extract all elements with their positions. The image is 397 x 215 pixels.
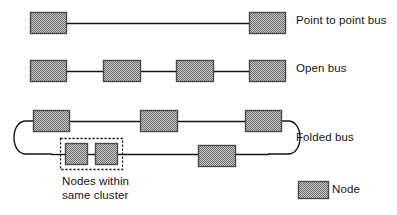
row-open-bus xyxy=(31,61,286,82)
node-open-4 xyxy=(250,61,286,82)
label-open-bus: Open bus xyxy=(296,62,347,75)
node-folded-top-3 xyxy=(246,111,282,132)
node-ptp-2 xyxy=(250,13,286,34)
node-open-3 xyxy=(177,61,214,82)
node-cluster-a xyxy=(66,144,88,165)
node-cluster-b xyxy=(96,144,118,165)
label-point-to-point-bus: Point to point bus xyxy=(296,14,387,27)
node-folded-bottom-1 xyxy=(199,146,236,167)
node-open-2 xyxy=(104,61,141,82)
label-folded-bus: Folded bus xyxy=(296,131,354,144)
node-legend-swatch xyxy=(299,182,329,199)
legend-group xyxy=(299,182,329,199)
row-folded-bus xyxy=(14,111,300,170)
node-folded-top-1 xyxy=(34,111,70,132)
node-ptp-1 xyxy=(31,13,67,34)
caption-nodes-within-same-cluster: Nodes within same cluster xyxy=(62,175,129,202)
bus-topologies-figure: Point to point bus Open bus Folded bus N… xyxy=(0,0,397,215)
row-point-to-point-bus xyxy=(31,13,286,34)
node-open-1 xyxy=(31,61,67,82)
legend-label-node: Node xyxy=(332,183,360,196)
node-folded-top-2 xyxy=(141,111,178,132)
